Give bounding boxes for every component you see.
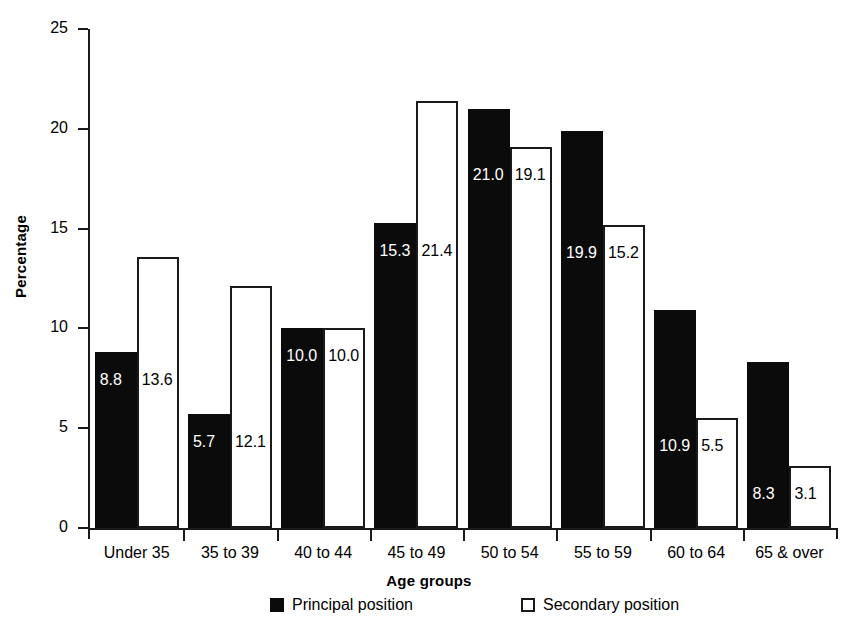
- y-axis-tick: [78, 527, 88, 529]
- y-axis-tick-label: 25: [16, 20, 68, 36]
- bar-chart: Percentage 0510152025 8.813.65.712.110.0…: [0, 0, 858, 636]
- bar-value-label: 5.5: [701, 438, 737, 454]
- x-axis-label-3: 45 to 49: [370, 544, 463, 562]
- bar-principal-3: [374, 223, 416, 528]
- bar-secondary-0: [137, 257, 179, 528]
- x-axis-group-separator: [277, 530, 279, 541]
- y-axis-tick: [78, 228, 88, 230]
- x-axis-label-0: Under 35: [90, 544, 183, 562]
- bar-value-label: 19.9: [566, 245, 602, 261]
- y-axis-tick: [78, 28, 88, 30]
- legend-label-principal: Principal position: [292, 596, 413, 614]
- bar-secondary-4: [510, 147, 552, 528]
- bar-principal-1: [188, 414, 230, 528]
- y-axis-tick-label: 5: [16, 419, 68, 435]
- x-axis-label-6: 60 to 64: [650, 544, 743, 562]
- bar-principal-7: [747, 362, 789, 528]
- legend-label-secondary: Secondary position: [543, 596, 679, 614]
- filled-square-icon: [270, 598, 284, 612]
- bar-value-label: 8.8: [100, 372, 136, 388]
- bar-secondary-6: [696, 418, 738, 528]
- legend-item-principal-position: Principal position: [270, 596, 413, 614]
- bar-value-label: 13.6: [142, 372, 178, 388]
- bar-value-label: 19.1: [515, 167, 551, 183]
- bar-secondary-3: [416, 101, 458, 528]
- bar-value-label: 21.0: [473, 167, 509, 183]
- x-axis-group-separator: [183, 530, 185, 541]
- y-axis-title: Percentage: [12, 197, 29, 317]
- y-axis-tick: [78, 427, 88, 429]
- bar-principal-5: [561, 131, 603, 528]
- chart-legend: Principal position Secondary position: [0, 596, 858, 628]
- x-axis-label-7: 65 & over: [743, 544, 836, 562]
- x-axis-label-4: 50 to 54: [463, 544, 556, 562]
- bar-value-label: 10.0: [328, 348, 364, 364]
- x-axis-label-5: 55 to 59: [556, 544, 649, 562]
- y-axis-tick-label: 15: [16, 220, 68, 236]
- bar-value-label: 15.3: [379, 243, 415, 259]
- y-axis-tick-label: 0: [16, 519, 68, 535]
- x-axis-group-separator: [743, 530, 745, 541]
- y-axis-tick-label: 10: [16, 319, 68, 335]
- bar-secondary-5: [603, 225, 645, 528]
- bar-value-label: 10.0: [286, 348, 322, 364]
- y-axis-line: [88, 29, 90, 529]
- x-axis-group-separator: [463, 530, 465, 541]
- x-axis-label-1: 35 to 39: [183, 544, 276, 562]
- legend-item-secondary-position: Secondary position: [521, 596, 679, 614]
- bar-value-label: 5.7: [193, 434, 229, 450]
- bar-value-label: 15.2: [608, 245, 644, 261]
- x-axis-title: Age groups: [0, 572, 858, 589]
- x-axis-label-2: 40 to 44: [277, 544, 370, 562]
- bar-secondary-1: [230, 286, 272, 528]
- hollow-square-icon: [521, 598, 535, 612]
- bar-value-label: 3.1: [794, 486, 830, 502]
- x-axis-group-separator: [370, 530, 372, 541]
- y-axis-tick-label: 20: [16, 120, 68, 136]
- bar-value-label: 21.4: [421, 243, 457, 259]
- x-axis-start-cap: [88, 528, 90, 539]
- x-axis-group-separator: [650, 530, 652, 541]
- y-axis-tick: [78, 327, 88, 329]
- bar-principal-6: [654, 310, 696, 528]
- y-axis-tick: [78, 128, 88, 130]
- x-axis-end-cap: [836, 528, 838, 539]
- bar-value-label: 8.3: [752, 486, 788, 502]
- x-axis-group-separator: [556, 530, 558, 541]
- bar-value-label: 12.1: [235, 434, 271, 450]
- bar-value-label: 10.9: [659, 438, 695, 454]
